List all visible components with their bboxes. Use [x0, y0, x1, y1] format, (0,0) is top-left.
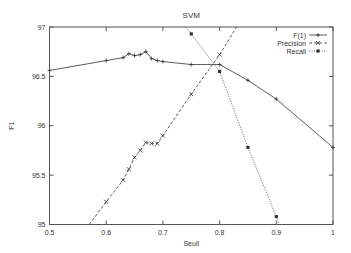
y-tick-label: 96 — [38, 122, 46, 129]
x-tick-label: 0.9 — [271, 229, 281, 236]
y-axis-label: F1 — [8, 122, 15, 130]
x-tick-label: 0.5 — [45, 229, 55, 236]
x-tick-label: 1 — [331, 229, 335, 236]
chart: SVMSeuilF10.50.60.70.80.919595.59696.597… — [0, 0, 351, 253]
series-precision — [89, 27, 236, 225]
legend-label: F(1) — [293, 32, 306, 40]
y-tick-label: 95.5 — [32, 172, 46, 179]
x-tick-label: 0.8 — [215, 229, 225, 236]
x-tick-label: 0.6 — [101, 229, 111, 236]
y-tick-label: 95 — [38, 221, 46, 228]
x-tick-label: 0.7 — [158, 229, 168, 236]
y-tick-label: 96.5 — [32, 73, 46, 80]
legend-label: Precision — [277, 40, 306, 47]
series-recall — [186, 27, 280, 225]
chart-title: SVM — [183, 11, 201, 20]
legend-label: Recall — [287, 48, 307, 55]
plot-frame — [50, 27, 334, 225]
x-axis-label: Seuil — [183, 240, 199, 247]
y-tick-label: 97 — [38, 24, 46, 31]
